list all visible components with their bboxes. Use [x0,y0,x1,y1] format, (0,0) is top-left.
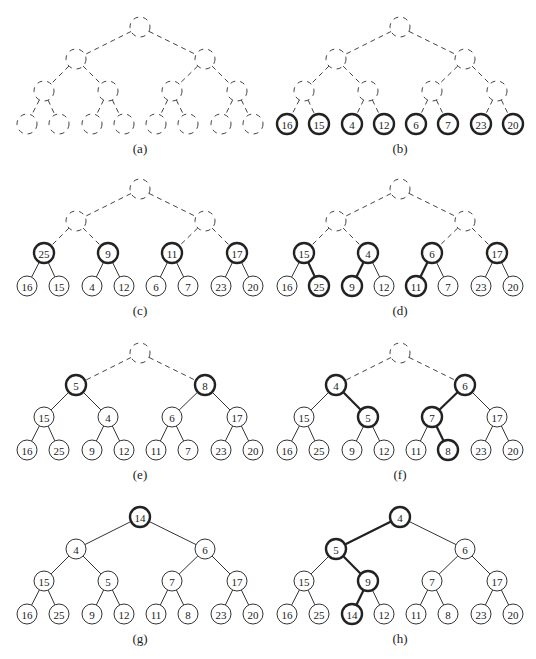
node-value: 23 [216,445,228,457]
node-value: 17 [232,248,244,260]
node-value: 12 [119,281,130,293]
node-circle [34,81,54,101]
heap-node: 9 [82,440,102,460]
node-value: 23 [476,119,488,131]
heap-node: 7 [422,407,442,427]
node-value: 11 [151,445,162,457]
node-circle [390,17,410,37]
tree-edge [212,66,230,84]
tree-edge [149,357,196,380]
node-circle [326,211,346,231]
node-circle [326,49,346,69]
node-value: 16 [22,445,34,457]
heap-node: 6 [146,276,166,296]
panel-caption: (b) [392,141,407,156]
tree-edge [241,100,248,115]
heap-node: 8 [438,604,458,624]
panel-d: 15461716259121172320(d) [277,179,523,318]
heap-node: 11 [146,604,166,624]
tree-edge [308,426,315,441]
heap-node [294,81,314,101]
tree-edge [439,66,458,84]
heap-node: 4 [390,507,410,527]
tree-edge [311,66,329,84]
heap-node: 6 [422,243,442,263]
heap-node [82,114,102,134]
heap-node: 4 [82,276,102,296]
node-circle [66,49,86,69]
tree-edge [501,426,508,441]
node-circle [195,211,215,231]
heap-node: 4 [98,407,118,427]
heap-node: 16 [277,440,297,460]
heap-node: 25 [49,604,69,624]
node-circle [130,17,150,37]
node-value: 7 [429,576,435,588]
node-value: 25 [314,609,326,621]
node-circle [66,211,86,231]
heap-node: 16 [277,114,297,134]
tree-edge [372,262,379,277]
heap-node [455,211,475,231]
heap-node: 20 [243,604,263,624]
heap-node: 20 [503,604,523,624]
tree-edge [436,100,443,115]
heap-node: 15 [309,114,329,134]
tree-edge [436,590,443,605]
heap-node: 14 [130,507,150,527]
node-circle [227,81,247,101]
node-value: 11 [411,445,422,457]
node-value: 16 [282,281,294,293]
heap-node: 17 [487,571,507,591]
tree-edge [420,426,427,441]
heap-node: 25 [309,440,329,460]
tree-edge [225,590,232,605]
heap-node: 14 [342,604,362,624]
node-value: 23 [216,281,228,293]
node-value: 8 [202,380,208,392]
tree-edge [83,228,101,246]
heap-node: 5 [66,375,86,395]
heap-node [146,114,166,134]
heap-node: 7 [178,276,198,296]
tree-edge [85,193,131,216]
tree-edge [292,100,300,115]
heap-node: 23 [211,276,231,296]
tree-edge [345,521,391,544]
node-value: 6 [429,248,435,260]
heap-node: 8 [195,375,215,395]
node-value: 12 [379,609,390,621]
heap-node: 25 [34,243,54,263]
heap-node: 25 [49,440,69,460]
tree-edge [420,262,427,277]
heap-node: 17 [227,571,247,591]
node-value: 6 [462,544,468,556]
heap-node [114,114,134,134]
heap-node [487,81,507,101]
node-circle [422,81,442,101]
node-value: 25 [54,445,66,457]
heap-node: 7 [422,571,442,591]
heap-node: 6 [162,407,182,427]
heap-node: 7 [438,276,458,296]
panel-e: 5815461716259121172320(e) [17,343,263,482]
node-value: 9 [365,576,371,588]
node-value: 7 [185,445,191,457]
node-circle [243,114,263,134]
heap-node: 23 [471,114,491,134]
heap-node: 8 [438,440,458,460]
tree-edge [343,66,361,84]
node-value: 11 [167,248,178,260]
tree-edge [112,426,119,441]
heap-node: 7 [178,440,198,460]
tree-edge [308,590,315,605]
heap-node [17,114,37,134]
node-value: 15 [39,412,51,424]
node-value: 5 [365,412,371,424]
node-value: 17 [492,248,504,260]
node-value: 8 [185,609,191,621]
tree-edge [356,590,363,605]
tree-edge [485,100,492,115]
tree-edge [439,556,458,574]
tree-edge [160,100,167,115]
